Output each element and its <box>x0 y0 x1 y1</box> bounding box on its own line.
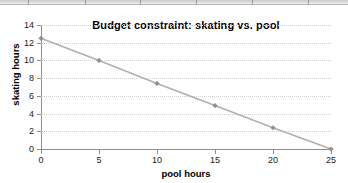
column-separator <box>252 0 253 5</box>
x-axis-tick-label: 15 <box>203 156 227 165</box>
x-axis-tick <box>41 150 42 154</box>
y-axis-title: skating hours <box>10 30 21 120</box>
data-point-marker <box>38 36 43 41</box>
x-axis-tick <box>331 150 332 154</box>
toolbar-strip <box>0 0 348 5</box>
y-axis-tick <box>37 43 41 44</box>
column-separator <box>85 0 86 5</box>
y-axis-tick <box>37 131 41 132</box>
y-axis-tick <box>37 78 41 79</box>
chart-container: Budget constraint: skating vs. pool skat… <box>0 6 348 183</box>
y-axis-tick-label: 12 <box>24 39 34 48</box>
x-axis-tick-label: 10 <box>145 156 169 165</box>
x-axis-tick <box>157 150 158 154</box>
y-axis-tick-label: 2 <box>29 127 34 136</box>
y-axis-tick-label: 14 <box>24 21 34 30</box>
data-point-marker <box>212 103 217 108</box>
y-axis-tick-label: 6 <box>29 92 34 101</box>
y-axis-tick-label: 4 <box>29 110 34 119</box>
x-axis-tick-label: 5 <box>87 156 111 165</box>
series-line <box>41 38 331 149</box>
data-point-marker <box>96 58 101 63</box>
column-separator <box>308 0 309 5</box>
column-separator <box>196 0 197 5</box>
y-axis-tick-label: 10 <box>24 56 34 65</box>
x-axis-line <box>41 149 331 150</box>
y-axis-tick <box>37 60 41 61</box>
x-axis-tick-label: 20 <box>261 156 285 165</box>
column-separator <box>28 0 29 5</box>
y-axis-tick <box>37 25 41 26</box>
y-axis-tick <box>37 96 41 97</box>
column-separator <box>140 0 141 5</box>
y-axis-tick-label: 0 <box>29 145 34 154</box>
plot-area <box>41 25 331 149</box>
x-axis-title: pool hours <box>41 168 331 179</box>
data-point-marker <box>270 125 275 130</box>
y-axis-tick-label: 8 <box>29 74 34 83</box>
x-axis-tick-label: 0 <box>29 156 53 165</box>
x-axis-tick <box>273 150 274 154</box>
data-point-marker <box>154 81 159 86</box>
data-series <box>41 25 331 149</box>
x-axis-tick <box>215 150 216 154</box>
x-axis-tick-label: 25 <box>319 156 343 165</box>
x-axis-tick <box>99 150 100 154</box>
y-axis-tick <box>37 114 41 115</box>
